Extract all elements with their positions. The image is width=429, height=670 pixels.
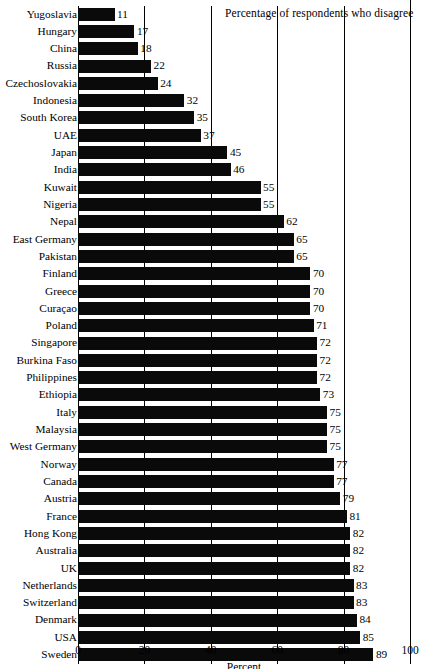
bar-value-label: 35 bbox=[194, 111, 208, 124]
bar-value-label: 18 bbox=[138, 42, 152, 55]
category-label: Switzerland bbox=[23, 595, 77, 609]
bar-value-label: 24 bbox=[158, 77, 172, 90]
bar-row: Philippines72 bbox=[0, 370, 429, 387]
bar-value-label: 75 bbox=[327, 423, 341, 436]
bar bbox=[78, 562, 350, 575]
bar-value-label: 82 bbox=[350, 527, 364, 540]
bar-value-label: 83 bbox=[354, 579, 368, 592]
bar bbox=[78, 8, 115, 21]
bar-row: Switzerland83 bbox=[0, 595, 429, 612]
category-label: Kuwait bbox=[44, 180, 77, 194]
plot-area: Yugoslavia11Hungary17China18Russia22Czec… bbox=[0, 6, 429, 664]
category-label: Finland bbox=[42, 266, 77, 280]
bar-row: Yugoslavia11 bbox=[0, 6, 429, 23]
bar-value-label: 72 bbox=[317, 336, 331, 349]
bar-row: Japan45 bbox=[0, 145, 429, 162]
bar-value-label: 70 bbox=[310, 302, 324, 315]
category-label: Hong Kong bbox=[24, 526, 77, 540]
bar bbox=[78, 285, 310, 298]
x-tick-label: 80 bbox=[338, 643, 350, 657]
bar-row: India46 bbox=[0, 162, 429, 179]
bar-value-label: 72 bbox=[317, 354, 331, 367]
bar-row: Netherlands83 bbox=[0, 577, 429, 594]
category-label: Ethiopia bbox=[39, 387, 77, 401]
category-label: Nigeria bbox=[43, 197, 77, 211]
category-label: Malaysia bbox=[36, 422, 77, 436]
bar bbox=[78, 60, 151, 73]
bar bbox=[78, 614, 357, 627]
bar bbox=[78, 267, 310, 280]
bar bbox=[78, 371, 317, 384]
category-label: Netherlands bbox=[22, 578, 77, 592]
category-label: Australia bbox=[36, 543, 77, 557]
category-label: East Germany bbox=[13, 232, 77, 246]
bar bbox=[78, 492, 340, 505]
bar bbox=[78, 111, 194, 124]
bar-row: Indonesia32 bbox=[0, 93, 429, 110]
bar-row: Russia22 bbox=[0, 58, 429, 75]
bar bbox=[78, 94, 184, 107]
category-label: Nepal bbox=[50, 214, 77, 228]
bar-row: China18 bbox=[0, 41, 429, 58]
bar bbox=[78, 423, 327, 436]
bar-value-label: 46 bbox=[231, 163, 245, 176]
category-label: Indonesia bbox=[33, 93, 77, 107]
bar bbox=[78, 77, 158, 90]
bar-value-label: 71 bbox=[314, 319, 328, 332]
bar-row: UK82 bbox=[0, 560, 429, 577]
bar bbox=[78, 388, 320, 401]
category-label: Burkina Faso bbox=[16, 353, 77, 367]
bar bbox=[78, 337, 317, 350]
bar-row: Nigeria55 bbox=[0, 196, 429, 213]
bar-value-label: 22 bbox=[151, 59, 165, 72]
bar bbox=[78, 163, 231, 176]
category-label: Italy bbox=[56, 405, 77, 419]
bar bbox=[78, 129, 201, 142]
x-tick-label: 100 bbox=[401, 643, 418, 657]
bar-row: Canada77 bbox=[0, 473, 429, 490]
bar-row: Finland70 bbox=[0, 266, 429, 283]
bar-row: Nepal62 bbox=[0, 214, 429, 231]
bar bbox=[78, 510, 347, 523]
bar-value-label: 55 bbox=[261, 181, 275, 194]
bar-row: Kuwait55 bbox=[0, 179, 429, 196]
bar bbox=[78, 527, 350, 540]
category-label: UAE bbox=[54, 128, 77, 142]
bar bbox=[78, 302, 310, 315]
category-label: Singapore bbox=[31, 335, 77, 349]
bar bbox=[78, 544, 350, 557]
bar-row: Malaysia75 bbox=[0, 422, 429, 439]
bar bbox=[78, 596, 354, 609]
bar-row: Pakistan65 bbox=[0, 248, 429, 265]
bar-row: Burkina Faso72 bbox=[0, 352, 429, 369]
bar-row: France81 bbox=[0, 508, 429, 525]
bar-value-label: 73 bbox=[320, 388, 334, 401]
bar bbox=[78, 215, 284, 228]
bar-value-label: 45 bbox=[227, 146, 241, 159]
bar bbox=[78, 440, 327, 453]
bar-row: West Germany75 bbox=[0, 439, 429, 456]
bar-value-label: 17 bbox=[134, 25, 148, 38]
bar bbox=[78, 198, 261, 211]
category-label: South Korea bbox=[20, 110, 77, 124]
bar-value-label: 65 bbox=[294, 233, 308, 246]
category-label: UK bbox=[61, 561, 77, 575]
bar bbox=[78, 233, 294, 246]
bar-row: Hong Kong82 bbox=[0, 525, 429, 542]
bar-value-label: 72 bbox=[317, 371, 331, 384]
bar-value-label: 81 bbox=[347, 510, 361, 523]
bar-row: Italy75 bbox=[0, 404, 429, 421]
bar-value-label: 84 bbox=[357, 613, 371, 626]
category-label: Japan bbox=[51, 145, 77, 159]
horizontal-bar-chart: Percentage of respondents who disagree Y… bbox=[0, 0, 429, 670]
category-label: France bbox=[46, 509, 77, 523]
category-label: Canada bbox=[43, 474, 77, 488]
x-axis: 020406080100 Percent bbox=[0, 640, 429, 670]
category-label: Czechoslovakia bbox=[5, 76, 77, 90]
bar bbox=[78, 475, 334, 488]
x-tick-label: 20 bbox=[139, 643, 151, 657]
bar-row: Poland71 bbox=[0, 318, 429, 335]
bar-row: Hungary17 bbox=[0, 23, 429, 40]
bar-value-label: 77 bbox=[334, 475, 348, 488]
bar-row: East Germany65 bbox=[0, 231, 429, 248]
